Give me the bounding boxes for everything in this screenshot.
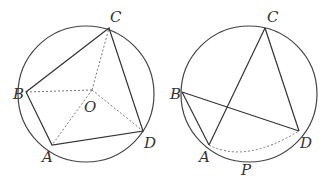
label-right-P: P — [240, 161, 252, 179]
label-right-D: D — [299, 134, 312, 152]
label-right-B: B — [169, 85, 181, 103]
right-figure: C B A D P — [169, 8, 317, 179]
segment-CA — [209, 28, 265, 145]
label-right-A: A — [197, 148, 210, 166]
label-left-B: B — [12, 85, 24, 103]
dotted-arc-APD — [209, 131, 299, 152]
segment-OD — [92, 90, 143, 131]
left-figure: C B A D O — [12, 8, 156, 166]
label-right-C: C — [267, 8, 279, 26]
left-quadrilateral-ABCD — [26, 28, 143, 145]
label-left-D: D — [143, 134, 156, 152]
geometry-diagram: C B A D O C B A D P — [0, 0, 329, 182]
segment-OB — [26, 90, 92, 92]
label-left-A: A — [40, 148, 53, 166]
label-left-O: O — [84, 98, 96, 116]
right-circle — [181, 26, 317, 162]
label-left-C: C — [110, 8, 122, 26]
segment-OC — [92, 28, 109, 90]
